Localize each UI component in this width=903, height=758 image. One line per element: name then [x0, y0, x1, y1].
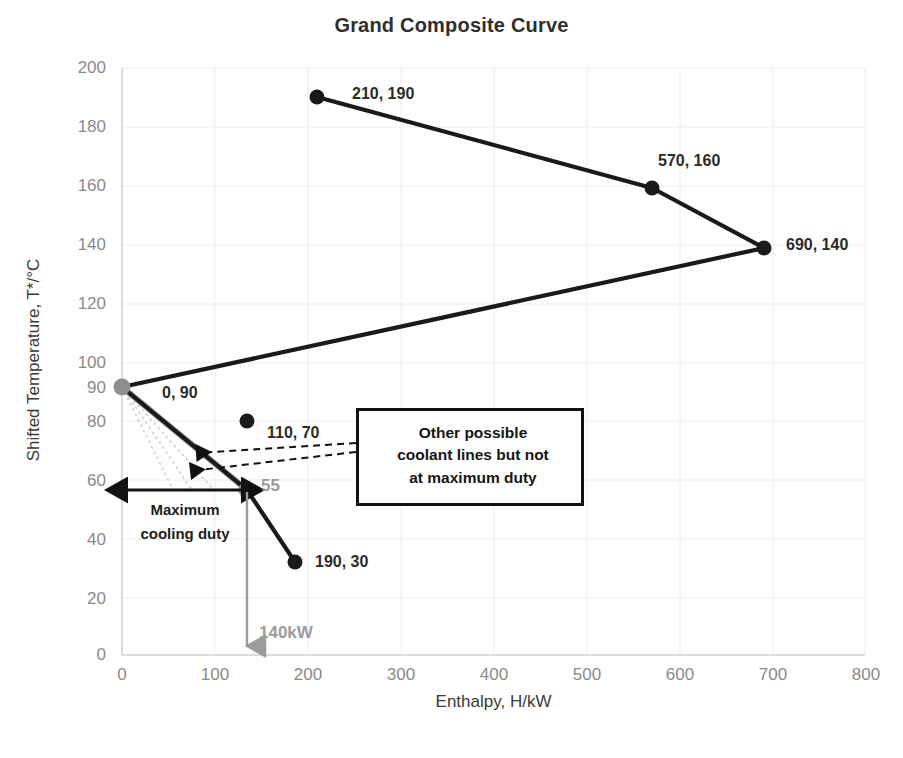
- max-cooling-duty-label-line1: Maximum: [120, 500, 250, 520]
- point-label-190-30: 190, 30: [315, 553, 368, 571]
- data-point-0-90: [114, 379, 131, 396]
- other-coolant-lines: [122, 387, 214, 490]
- callout-line-3: at maximum duty: [359, 467, 587, 489]
- callout-line-1: Other possible: [359, 422, 587, 444]
- point-label-210-190: 210, 190: [352, 85, 414, 103]
- point-label-690-140: 690, 140: [786, 236, 848, 254]
- duty-value-label: 140kW: [259, 623, 313, 643]
- data-point-570-160: [645, 181, 660, 196]
- point-label-570-160: 570, 160: [658, 152, 720, 170]
- point-label-110-70: 110, 70: [267, 424, 320, 442]
- max-cooling-duty-label-line2: cooling duty: [120, 524, 250, 544]
- callout-box: Other possible coolant lines but not at …: [356, 408, 584, 506]
- data-point-690-140: [757, 241, 772, 256]
- plot-area: [0, 0, 903, 758]
- point-label-0-90: 0, 90: [162, 384, 198, 402]
- grand-composite-curve-chart: Grand Composite Curve Shifted Temperatur…: [0, 0, 903, 758]
- data-point-110-70: [240, 414, 255, 429]
- callout-line-2: coolant lines but not: [359, 444, 587, 466]
- point-label-140-55: 55: [261, 476, 280, 496]
- callout-text: Other possible coolant lines but not at …: [359, 422, 587, 489]
- data-point-210-190: [310, 90, 325, 105]
- data-point-190-30: [288, 555, 303, 570]
